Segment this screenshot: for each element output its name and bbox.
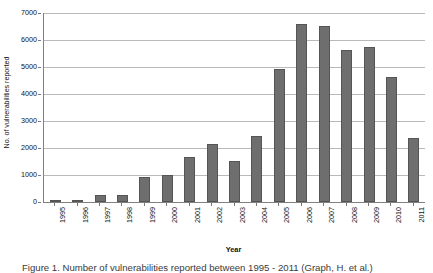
x-axis-tick-label: 2011 [417, 207, 427, 241]
y-axis-tick-mark [38, 121, 41, 122]
bar-series [44, 13, 425, 202]
x-axis-tick-mark [256, 203, 257, 206]
x-axis-tick-label: 2003 [238, 207, 248, 241]
x-axis-tick-mark [413, 203, 414, 206]
y-axis-tick-label: 1000 [21, 171, 37, 179]
x-axis-tick-labels: 1995199619971998199920002001200220032004… [43, 203, 424, 245]
x-axis-tick-mark [390, 203, 391, 206]
bar [207, 144, 218, 202]
vulnerabilities-bar-chart: No. of vulnerabilities reported 01000200… [0, 0, 433, 273]
x-axis-tick-mark [77, 203, 78, 206]
y-axis-tick-label: 4000 [21, 90, 37, 98]
bar [162, 175, 173, 203]
y-axis-tick-mark [38, 40, 41, 41]
bar [139, 177, 150, 202]
y-axis-tick-labels: 01000200030004000500060007000 [12, 0, 41, 273]
bar [364, 47, 375, 202]
y-axis-tick-mark [38, 148, 41, 149]
x-axis-tick-mark [54, 203, 55, 206]
x-axis-tick-mark [346, 203, 347, 206]
y-axis-tick-label: 5000 [21, 63, 37, 71]
bar [117, 195, 128, 202]
x-axis-tick-label: 1996 [81, 207, 91, 241]
y-axis-tick-label: 7000 [21, 9, 37, 17]
bar [296, 24, 307, 203]
x-axis-tick-label: 1998 [125, 207, 135, 241]
x-axis-tick-label: 2000 [170, 207, 180, 241]
y-axis-tick-label: 0 [33, 198, 37, 206]
bar [341, 50, 352, 202]
x-axis-tick-label: 2001 [193, 207, 203, 241]
x-axis-tick-label: 2005 [282, 207, 292, 241]
x-axis-tick-mark [99, 203, 100, 206]
bar [408, 138, 419, 202]
x-axis-tick-mark [301, 203, 302, 206]
x-axis-tick-mark [278, 203, 279, 206]
x-axis-tick-label: 2008 [350, 207, 360, 241]
bar [50, 200, 61, 202]
x-axis-tick-mark [211, 203, 212, 206]
bar [229, 161, 240, 202]
bar [251, 136, 262, 202]
bar [274, 69, 285, 202]
bar [319, 26, 330, 202]
x-axis-tick-label: 2009 [372, 207, 382, 241]
x-axis-tick-mark [166, 203, 167, 206]
bar [95, 195, 106, 202]
x-axis-tick-mark [189, 203, 190, 206]
y-axis-tick-mark [38, 94, 41, 95]
figure-caption: Figure 1. Number of vulnerabilities repo… [22, 262, 422, 273]
bar [386, 77, 397, 203]
bar [184, 157, 195, 202]
x-axis-tick-mark [368, 203, 369, 206]
y-axis-tick-label: 6000 [21, 36, 37, 44]
x-axis-tick-label: 2004 [260, 207, 270, 241]
y-axis-tick-label: 2000 [21, 144, 37, 152]
x-axis-tick-mark [234, 203, 235, 206]
y-axis-tick-mark [38, 67, 41, 68]
x-axis-title: Year [43, 245, 424, 254]
y-axis-tick-mark [38, 13, 41, 14]
x-axis-tick-label: 1999 [148, 207, 158, 241]
bar [72, 200, 83, 202]
x-axis-tick-mark [323, 203, 324, 206]
y-axis-tick-mark [38, 202, 41, 203]
plot-area [43, 13, 425, 203]
y-axis-title-label: No. of vulnerabilities reported [3, 57, 12, 149]
x-axis-tick-label: 2007 [327, 207, 337, 241]
x-axis-tick-label: 2006 [305, 207, 315, 241]
x-axis-tick-label: 2010 [394, 207, 404, 241]
y-axis-tick-label: 3000 [21, 117, 37, 125]
y-axis-tick-mark [38, 175, 41, 176]
x-axis-tick-label: 1995 [58, 207, 68, 241]
x-axis-tick-label: 2002 [215, 207, 225, 241]
x-axis-tick-label: 1997 [103, 207, 113, 241]
x-axis-tick-mark [121, 203, 122, 206]
x-axis-tick-mark [144, 203, 145, 206]
